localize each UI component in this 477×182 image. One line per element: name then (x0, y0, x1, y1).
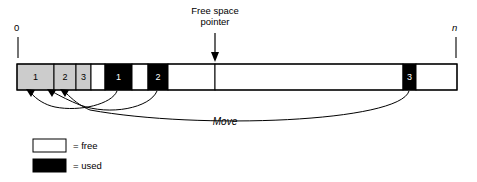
move-label: Move (195, 116, 255, 127)
memory-block-gap-2 (132, 64, 148, 90)
free-space-pointer-label-line2: pointer (175, 16, 255, 27)
memory-block-label-used-2: 2 (148, 73, 168, 82)
legend-label-free: = free (73, 140, 98, 151)
memory-block-label-compacted-3: 3 (76, 73, 91, 82)
memory-block-gap-1 (91, 64, 105, 90)
axis-end-label: n (452, 22, 457, 33)
free-space-pointer-label-line1: Free space (175, 5, 255, 16)
move-arrow-3-head (60, 89, 69, 97)
legend-swatch-free (33, 139, 66, 152)
legend-label-used: = used (73, 160, 102, 171)
move-arrow-2-path (53, 91, 157, 110)
memory-block-gap-4 (416, 64, 457, 90)
legend-swatch-used (33, 159, 66, 172)
free-space-pointer-arrowhead (211, 52, 219, 62)
axis-start-label: 0 (14, 22, 19, 33)
memory-compaction-diagram: 0 n Free space pointer 1 2 3 1 2 3 Move … (0, 0, 477, 182)
memory-block-label-used-3: 3 (403, 73, 416, 82)
memory-block-free-space (215, 64, 403, 90)
memory-block-label-compacted-1: 1 (17, 73, 54, 82)
memory-block-label-used-1: 1 (105, 73, 132, 82)
memory-block-label-compacted-2: 2 (54, 73, 76, 82)
memory-block-gap-3 (168, 64, 215, 90)
diagram-canvas (0, 0, 477, 182)
